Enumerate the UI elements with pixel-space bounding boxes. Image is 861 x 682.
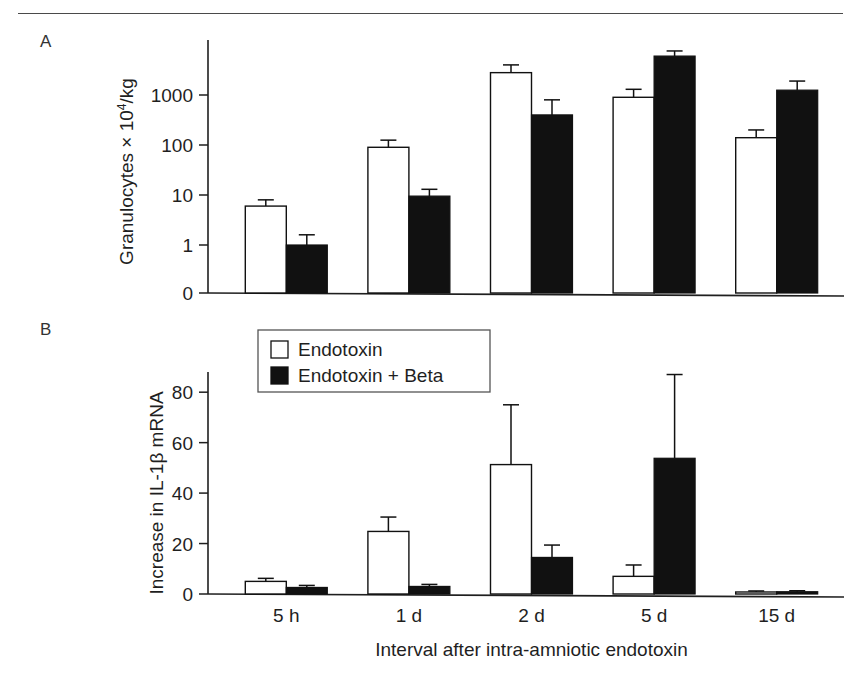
figure-canvas: 01101001000Granulocytes × 104/kg 0204060… [0,0,861,682]
panel-b-y-tick-label: 40 [172,483,193,504]
panel-a-bar-open [736,138,777,293]
panel-a-bar-solid [777,90,818,293]
panel-a-bar-open [613,97,654,293]
panel-a-y-tick-label: 100 [161,135,193,156]
panel-a-y-tick-label: 10 [172,185,193,206]
x-tick-label-3: 5 d [641,605,667,626]
panel-a-y-axis-title-prefix: Granulocytes × 10 [116,110,137,265]
panel-a-y-axis-title: Granulocytes × 104/kg [115,78,137,265]
panel-b-bar-solid [409,586,450,594]
panel-b-y-tick-label: 0 [182,584,193,605]
panel-b-bar-solid [532,557,573,594]
panel-a-bar-solid [532,115,573,293]
panel-b-y-tick-label: 60 [172,433,193,454]
panel-b-label: B [40,320,52,340]
chart-legend: EndotoxinEndotoxin + Beta [258,330,490,392]
panel-b-bar-solid [777,592,818,594]
panel-b-chart: 020406080Increase in IL-1β mRNA [146,372,844,605]
top-divider-rule [18,13,843,14]
panel-a-bar-solid [654,56,695,293]
panel-b-bar-open [368,531,409,594]
panel-b-bar-open [245,581,286,594]
legend-swatch-open [271,341,288,358]
panel-a-bar-solid [286,245,327,293]
x-tick-label-1: 1 d [396,605,422,626]
legend-label-1: Endotoxin + Beta [298,365,444,386]
panel-b-bar-solid [654,458,695,594]
panel-a-label: A [40,32,52,52]
panel-a-chart: 01101001000Granulocytes × 104/kg [115,40,844,304]
x-axis-title: Interval after intra-amniotic endotoxin [375,639,688,660]
panel-b-y-tick-label: 20 [172,534,193,555]
legend-swatch-filled [271,367,288,384]
x-tick-label-2: 2 d [518,605,544,626]
panel-b-bar-solid [286,587,327,594]
panel-b-bar-open [491,465,532,594]
legend-label-0: Endotoxin [298,339,383,360]
panel-a-y-tick-label: 0 [182,283,193,304]
x-tick-label-0: 5 h [273,605,299,626]
panel-b-y-axis-title: Increase in IL-1β mRNA [146,391,167,594]
panel-a-bar-open [491,73,532,293]
shared-x-axis: 5 h1 d2 d5 d15 dInterval after intra-amn… [273,605,795,660]
figure-root: A B 01101001000Granulocytes × 104/kg 020… [0,0,861,682]
panel-a-y-tick-label: 1 [182,235,193,256]
panel-a-bar-open [368,147,409,293]
panel-b-bar-open [613,576,654,594]
panel-a-bar-open [245,206,286,293]
panel-a-y-axis-title-suffix: /kg [116,78,137,103]
panel-b-bar-open [736,592,777,594]
panel-a-bar-solid [409,196,450,293]
panel-a-y-tick-label: 1000 [151,85,193,106]
panel-b-y-tick-label: 80 [172,382,193,403]
x-tick-label-4: 15 d [758,605,795,626]
